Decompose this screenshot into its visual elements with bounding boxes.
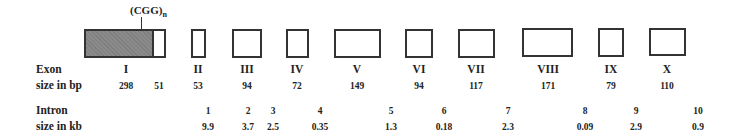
- exon-2-box: [191, 29, 206, 58]
- exon-10-box: [649, 28, 686, 56]
- intron-size-value: 9.9: [202, 122, 214, 132]
- exon-numeral: VI: [413, 63, 426, 75]
- intron-row-label: Intron: [36, 104, 68, 116]
- intron-number: 6: [442, 106, 447, 116]
- exon-numeral: III: [240, 63, 253, 75]
- intron-number: 4: [318, 106, 323, 116]
- exon-row-label: Exon: [36, 63, 62, 75]
- intron-number: 10: [693, 106, 703, 116]
- intron-number: 3: [271, 106, 276, 116]
- exon-1-shaded-box: [84, 29, 154, 58]
- exon-size-value: 94: [242, 81, 252, 91]
- cgg-repeat-text: (CGG): [130, 4, 162, 16]
- cgg-repeat-subscript: n: [162, 10, 166, 19]
- intron-size-value: 2.9: [630, 122, 642, 132]
- exon-6-box: [405, 29, 433, 58]
- exon-size-value: 171: [541, 81, 555, 91]
- exon-numeral: VII: [467, 63, 484, 75]
- cgg-repeat-label: n(CGG)n: [130, 4, 167, 19]
- exon-numeral: X: [663, 63, 671, 75]
- intron-size-row-label: size in kb: [36, 120, 82, 132]
- exon-9-box: [598, 28, 624, 57]
- intron-size-value: 1.3: [385, 122, 397, 132]
- exon-numeral: V: [353, 63, 361, 75]
- exon-numeral: I: [124, 63, 128, 75]
- intron-size-value: 2.5: [267, 122, 279, 132]
- exon-size-value: 110: [660, 81, 674, 91]
- intron-size-value: 0.35: [312, 122, 329, 132]
- exon-numeral: IX: [605, 63, 618, 75]
- exon-5-box: [334, 29, 381, 58]
- intron-size-value: 0.09: [577, 122, 594, 132]
- exon-4-box: [286, 29, 309, 58]
- exon-size-value: 149: [350, 81, 364, 91]
- exon-size-value: 117: [469, 81, 483, 91]
- exon-3-box: [232, 29, 262, 58]
- intron-number: 2: [246, 106, 251, 116]
- intron-size-value: 0.9: [692, 122, 704, 132]
- exon-size-value: 51: [154, 81, 164, 91]
- intron-number: 1: [206, 106, 211, 116]
- exon-numeral: IV: [291, 63, 304, 75]
- intron-size-value: 0.18: [436, 122, 453, 132]
- exon-size-value: 298: [119, 81, 133, 91]
- exon-size-value: 72: [292, 81, 302, 91]
- intron-number: 9: [634, 106, 639, 116]
- intron-number: 7: [506, 106, 511, 116]
- intron-size-value: 2.3: [502, 122, 514, 132]
- exon-1-white-box: [152, 29, 166, 58]
- exon-7-box: [458, 29, 495, 58]
- exon-size-value: 94: [414, 81, 424, 91]
- intron-number: 8: [583, 106, 588, 116]
- exon-size-row-label: size in bp: [36, 79, 82, 91]
- exon-numeral: VIII: [537, 63, 559, 75]
- exon-size-value: 79: [606, 81, 616, 91]
- intron-number: 5: [389, 106, 394, 116]
- exon-numeral: II: [194, 63, 203, 75]
- exon-size-value: 53: [193, 81, 203, 91]
- exon-8-box: [522, 28, 573, 57]
- intron-size-value: 3.7: [242, 122, 254, 132]
